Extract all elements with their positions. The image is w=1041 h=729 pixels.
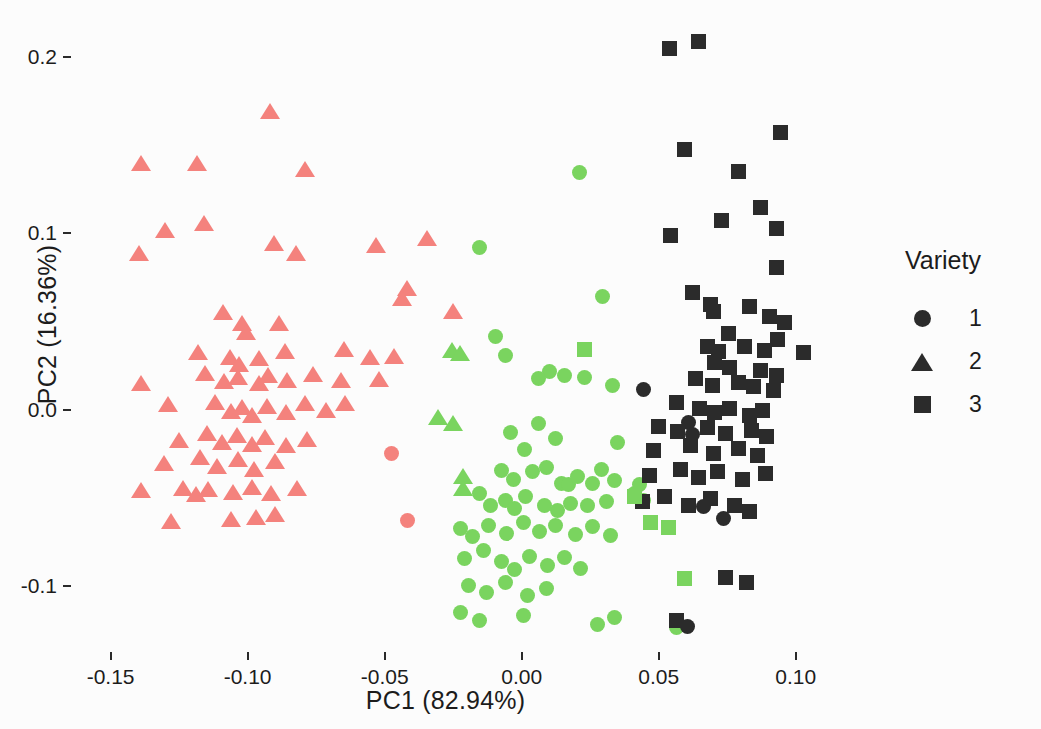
legend-title: Variety	[905, 246, 1035, 275]
data-point-square	[722, 401, 737, 416]
data-point-square	[718, 570, 733, 585]
data-point-circle	[539, 460, 554, 475]
data-point-circle	[594, 462, 609, 477]
data-point-square	[750, 448, 765, 463]
triangle-glyph	[911, 353, 933, 371]
data-point-circle	[472, 240, 487, 255]
x-tick-mark	[795, 652, 797, 660]
data-point-square	[681, 498, 696, 513]
y-tick-label: 0.2	[0, 45, 57, 69]
data-point-triangle	[258, 367, 278, 383]
data-point-square	[677, 142, 692, 157]
data-point-circle	[557, 368, 572, 383]
data-point-square	[673, 462, 688, 477]
data-point-circle	[716, 511, 731, 526]
data-point-circle	[488, 329, 503, 344]
data-point-square	[691, 470, 706, 485]
legend: Variety 123	[905, 246, 1035, 426]
y-tick-label: -0.1	[0, 574, 57, 598]
data-point-circle	[518, 489, 533, 504]
x-tick-label: -0.10	[224, 665, 272, 689]
data-point-triangle	[360, 349, 380, 365]
data-point-square	[692, 401, 707, 416]
square-glyph	[914, 396, 931, 413]
data-point-square	[710, 464, 725, 479]
y-tick-mark	[63, 585, 71, 587]
data-point-triangle	[295, 161, 315, 177]
data-point-square	[766, 383, 781, 398]
data-point-square	[577, 342, 592, 357]
data-point-square	[714, 213, 729, 228]
data-point-triangle	[246, 509, 266, 525]
data-point-square	[742, 504, 757, 519]
data-point-circle	[607, 610, 622, 625]
data-point-triangle	[287, 480, 307, 496]
data-point-circle	[531, 416, 546, 431]
data-point-triangle	[384, 348, 404, 364]
circle-icon	[905, 305, 939, 333]
data-point-circle	[516, 515, 531, 530]
y-tick-mark	[63, 56, 71, 58]
data-point-square	[744, 423, 759, 438]
data-point-square	[706, 304, 721, 319]
data-point-triangle	[221, 511, 241, 527]
legend-entry-3[interactable]: 3	[905, 383, 1035, 426]
data-point-triangle	[276, 437, 296, 453]
data-point-triangle	[131, 155, 151, 171]
data-point-circle	[525, 464, 540, 479]
data-point-square	[722, 360, 737, 375]
data-point-circle	[465, 529, 480, 544]
data-point-circle	[548, 431, 563, 446]
data-point-triangle	[236, 324, 256, 340]
data-point-square	[718, 426, 733, 441]
data-point-circle	[483, 498, 498, 513]
data-point-square	[742, 299, 757, 314]
legend-entry-2[interactable]: 2	[905, 340, 1035, 383]
data-point-square	[688, 371, 703, 386]
pca-scatter-plot: PC2 (16.36%) PC1 (82.94%) -0.15-0.10-0.0…	[0, 0, 1041, 729]
data-point-circle	[539, 581, 554, 596]
y-axis-title: PC2 (16.36%)	[33, 125, 62, 525]
data-point-square	[737, 339, 752, 354]
data-point-square	[721, 326, 736, 341]
data-point-triangle	[443, 303, 463, 319]
legend-label: 2	[969, 348, 982, 375]
data-point-circle	[610, 435, 625, 450]
data-point-square	[643, 515, 658, 530]
data-point-circle	[595, 289, 610, 304]
data-point-circle	[522, 549, 537, 564]
data-point-circle	[540, 558, 555, 573]
data-point-triangle	[194, 215, 214, 231]
data-point-circle	[532, 524, 547, 539]
data-point-square	[651, 419, 666, 434]
legend-label: 1	[969, 305, 982, 332]
data-point-square	[731, 441, 746, 456]
data-point-triangle	[275, 343, 295, 359]
data-point-circle	[384, 446, 399, 461]
y-tick-label: 0.1	[0, 221, 57, 245]
data-point-triangle	[244, 461, 264, 477]
data-point-triangle	[131, 482, 151, 498]
data-point-triangle	[295, 395, 315, 411]
data-point-triangle	[443, 415, 463, 431]
data-point-circle	[507, 562, 522, 577]
data-point-triangle	[331, 372, 351, 388]
data-point-triangle	[450, 345, 470, 361]
data-point-triangle	[187, 155, 207, 171]
data-point-triangle	[366, 237, 386, 253]
data-point-circle	[400, 513, 415, 528]
data-point-circle	[503, 425, 518, 440]
data-point-triangle	[169, 432, 189, 448]
data-point-triangle	[276, 404, 296, 420]
data-point-circle	[453, 605, 468, 620]
data-point-circle	[457, 551, 472, 566]
data-point-circle	[498, 575, 513, 590]
data-point-triangle	[158, 396, 178, 412]
data-point-circle	[476, 543, 491, 558]
data-point-circle	[520, 588, 535, 603]
legend-entry-1[interactable]: 1	[905, 297, 1035, 340]
data-point-circle	[481, 518, 496, 533]
data-point-square	[769, 221, 784, 236]
x-tick-label: -0.05	[361, 665, 409, 689]
data-point-triangle	[392, 290, 412, 306]
